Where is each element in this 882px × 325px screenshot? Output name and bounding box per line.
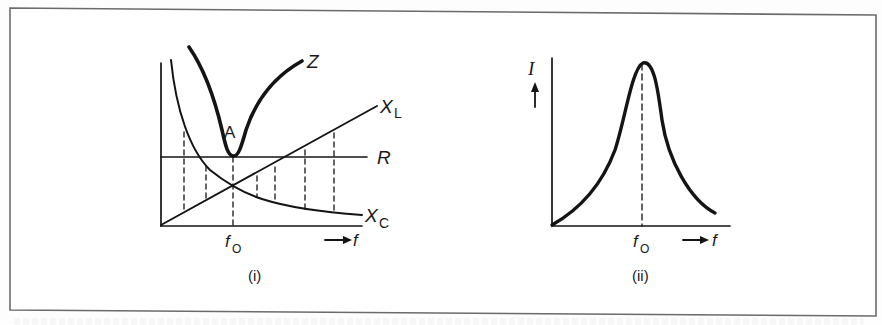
label-Z: Z	[306, 51, 320, 72]
figure-frame	[10, 8, 876, 316]
label-point-A: A	[224, 123, 236, 142]
label-XL: X	[379, 96, 394, 117]
label-XC-subscript: C	[379, 215, 389, 231]
label-XC: X	[364, 205, 379, 226]
caption-panel-ii: (ii)	[632, 267, 649, 284]
label-XL-subscript: L	[394, 105, 402, 121]
label-R: R	[377, 147, 391, 168]
label-f0-subscript: O	[232, 242, 241, 256]
label-f0-subscript: O	[640, 242, 649, 256]
caption-panel-i: (i)	[248, 267, 261, 284]
